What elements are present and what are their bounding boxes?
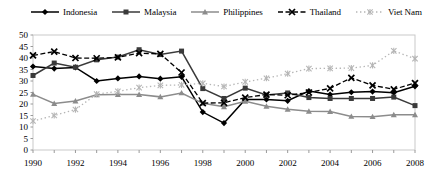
data-point-marker-square [124,10,129,15]
legend-key-square-icon [111,6,141,18]
x-axis-tick-label: 2000 [236,158,255,168]
data-point-marker-square [243,86,248,91]
y-axis-tick-label: 40 [19,53,29,63]
series-malaysia [31,47,418,108]
x-axis-tick-label: 1994 [109,158,128,168]
data-point-marker-square [413,103,418,108]
data-point-marker-square [391,95,396,100]
data-point-marker-diamond [115,75,121,81]
series-viet-nam [30,48,417,124]
legend-item-thailand[interactable]: Thailand [277,6,341,18]
x-axis-tick-label: 2004 [321,158,340,168]
data-point-marker-diamond [42,9,48,15]
y-axis-tick-label: 0 [24,145,29,155]
data-point-marker-square [73,65,78,70]
data-point-marker-square [200,86,205,91]
data-point-marker-diamond [157,76,163,82]
data-point-marker-square [179,49,184,54]
data-point-marker-diamond [30,63,36,69]
y-axis-tick-label: 50 [19,30,29,40]
data-point-marker-asterisk [412,56,417,62]
data-point-marker-x [327,85,333,91]
legend-key-diamond-icon [30,6,60,18]
legend-item-label: Philippines [223,7,262,17]
series-philippines [30,90,418,119]
data-point-marker-asterisk [370,62,375,68]
x-axis-tick-label: 2002 [279,158,297,168]
y-axis-tick-label: 20 [19,99,29,109]
data-point-marker-asterisk [115,88,120,94]
legend-item-label: Malaysia [144,7,176,17]
legend-item-label: Viet Nam [388,7,422,17]
legend-key-x-icon [277,6,307,18]
x-axis-tick-label: 1996 [151,158,170,168]
data-point-marker-asterisk [349,65,354,71]
x-axis-tick-label: 1992 [66,158,84,168]
data-point-marker-asterisk [30,118,35,124]
y-axis-tick-label: 45 [19,42,29,52]
legend-item-indonesia[interactable]: Indonesia [30,6,97,18]
x-axis-tick-label: 1998 [194,158,213,168]
x-axis-tick-label: 2008 [406,158,425,168]
data-point-marker-x [348,75,354,81]
legend-key-asterisk-icon [355,6,385,18]
data-point-marker-square [349,96,354,101]
data-point-marker-square [370,96,375,101]
chart-legend: IndonesiaMalaysiaPhilippinesThailandViet… [0,2,429,22]
data-point-marker-diamond [136,73,142,79]
data-point-marker-square [52,61,57,66]
data-point-marker-asterisk [73,106,78,112]
data-point-marker-asterisk [136,85,141,91]
y-axis-tick-label: 30 [19,76,29,86]
data-point-marker-asterisk [179,82,184,88]
y-axis-tick-label: 15 [19,111,29,121]
legend-item-viet-nam[interactable]: Viet Nam [355,6,422,18]
plot-area: 0510152025303540455019901992199419961998… [0,22,429,186]
legend-item-label: Thailand [310,7,341,17]
chart-figure: IndonesiaMalaysiaPhilippinesThailandViet… [0,0,429,186]
y-axis-tick-label: 10 [19,122,29,132]
y-axis-tick-label: 25 [19,88,29,98]
data-point-marker-diamond [369,88,375,94]
x-axis-tick-label: 1990 [24,158,43,168]
legend-item-label: Indonesia [63,7,97,17]
y-axis-tick-label: 5 [24,134,29,144]
data-point-marker-diamond [348,89,354,95]
y-axis-tick-label: 35 [19,65,29,75]
data-point-marker-square [31,73,36,78]
series-line [33,67,415,124]
data-point-marker-asterisk [306,65,311,71]
data-point-marker-asterisk [391,48,396,54]
legend-item-malaysia[interactable]: Malaysia [111,6,176,18]
x-axis-tick-label: 2006 [364,158,383,168]
data-point-marker-asterisk [264,75,269,81]
data-point-marker-diamond [51,65,57,71]
legend-key-triangle-icon [190,6,220,18]
data-point-marker-asterisk [243,79,248,85]
legend-item-philippines[interactable]: Philippines [190,6,262,18]
data-point-marker-square [328,96,333,101]
data-point-marker-square [306,95,311,100]
data-point-marker-asterisk [200,80,205,86]
line-chart-svg: 0510152025303540455019901992199419961998… [0,22,429,186]
